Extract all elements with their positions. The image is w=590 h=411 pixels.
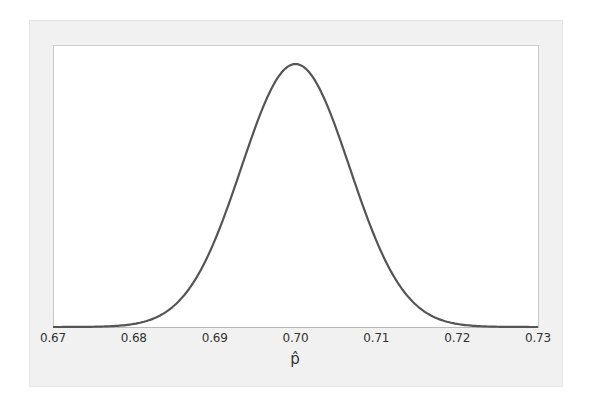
x-axis-label: p̂ xyxy=(290,350,300,368)
x-tick-label: 0.68 xyxy=(121,331,147,345)
x-tick-label: 0.67 xyxy=(40,331,66,345)
x-tick-label: 0.70 xyxy=(283,331,309,345)
density-curve xyxy=(53,64,538,327)
x-tick-label: 0.73 xyxy=(525,331,551,345)
x-tick-label: 0.71 xyxy=(363,331,389,345)
x-tick-label: 0.72 xyxy=(444,331,470,345)
x-tick-label: 0.69 xyxy=(202,331,228,345)
